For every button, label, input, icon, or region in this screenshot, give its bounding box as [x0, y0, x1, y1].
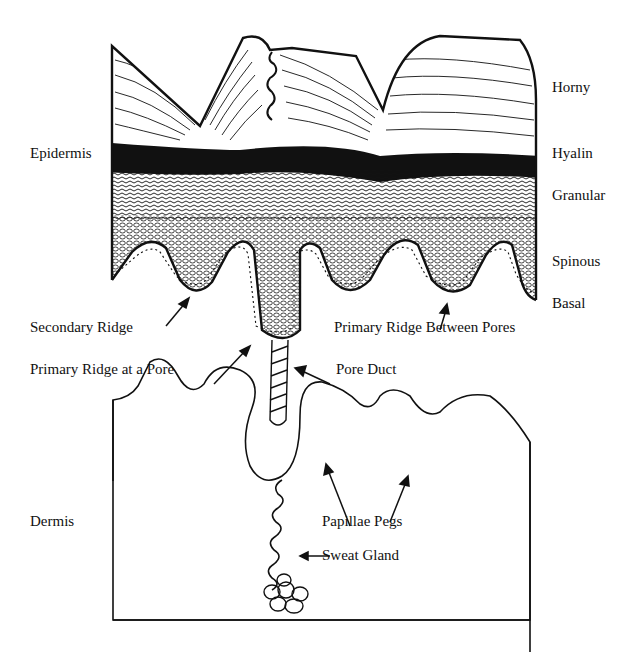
label-layer-basal: Basal: [552, 296, 585, 311]
coiled-sweat-duct: [268, 480, 283, 590]
skin-cross-section-diagram: Epidermis Dermis Horny Hyalin Granular S…: [0, 0, 634, 652]
label-layer-spinous: Spinous: [552, 254, 600, 269]
dermis-outline: [113, 359, 530, 652]
label-layer-horny: Horny: [552, 80, 590, 95]
label-secondary-ridge: Secondary Ridge: [30, 320, 133, 335]
dermis-bottom-edge: [113, 400, 530, 620]
label-epidermis: Epidermis: [30, 146, 92, 161]
label-primary-ridge-between-pores: Primary Ridge Between Pores: [334, 320, 515, 335]
hyalin-granular-layers: [100, 142, 540, 335]
label-dermis: Dermis: [30, 514, 74, 529]
label-layer-granular: Granular: [552, 188, 605, 203]
label-sweat-gland: Sweat Gland: [322, 548, 399, 563]
sweat-gland-drawing: [264, 574, 308, 613]
horny-layer: [115, 50, 534, 140]
label-arrows: [166, 298, 449, 560]
pore-duct-drawing: [270, 340, 288, 425]
label-pore-duct: Pore Duct: [336, 362, 396, 377]
label-primary-ridge-at-pore: Primary Ridge at a Pore: [30, 362, 174, 377]
label-papillae-pegs: Papillae Pegs: [322, 514, 402, 529]
label-layer-hyalin: Hyalin: [552, 146, 593, 161]
pore-channel: [267, 52, 276, 120]
